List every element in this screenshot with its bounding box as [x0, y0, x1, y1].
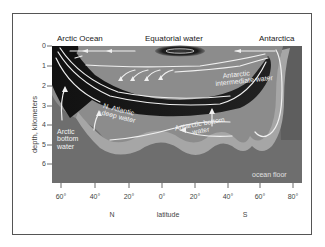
x-tick-60s: 60° — [255, 193, 266, 200]
x-tick-0: 0° — [159, 193, 166, 200]
x-tick-40s: 40° — [223, 193, 234, 200]
x-axis-label: latitude — [157, 211, 180, 218]
x-hemisphere-north: N — [109, 211, 114, 218]
x-tick-80s: 80° — [288, 193, 299, 200]
label-arctic-bottom-water: Arctic bottom water — [57, 128, 78, 150]
x-tick-20s: 20° — [190, 193, 201, 200]
x-hemisphere-south: S — [243, 211, 248, 218]
x-tick-40n: 40° — [90, 193, 101, 200]
x-tick-60n: 60° — [56, 193, 67, 200]
x-tick-20n: 20° — [124, 193, 135, 200]
ocean-cross-section — [0, 0, 325, 247]
label-ocean-floor: ocean floor — [252, 171, 287, 178]
